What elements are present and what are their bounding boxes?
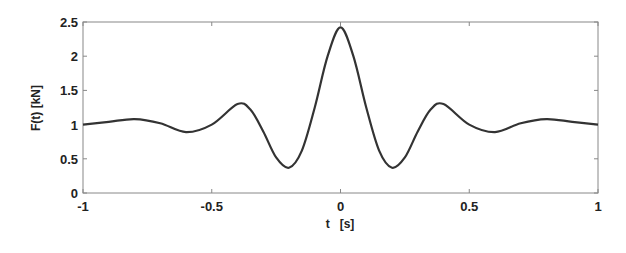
y-tick-label: 1 <box>71 118 78 133</box>
plot-area <box>83 22 598 193</box>
x-tick-label: -0.5 <box>201 199 223 214</box>
x-tick-label: 0.5 <box>460 199 478 214</box>
y-tick-label: 2 <box>71 49 78 64</box>
x-tick-label: 1 <box>594 199 601 214</box>
x-tick-label: -1 <box>77 199 89 214</box>
y-tick-label: 1.5 <box>60 83 78 98</box>
line-chart: 00.511.522.5 -1-0.500.51 F(t) [kN] t [s] <box>0 0 626 253</box>
y-tick-label: 0.5 <box>60 152 78 167</box>
x-axis-label: t [s] <box>326 217 355 231</box>
y-axis-label: F(t) [kN] <box>29 85 43 131</box>
x-tick-label: 0 <box>337 199 344 214</box>
y-tick-label: 2.5 <box>60 15 78 30</box>
